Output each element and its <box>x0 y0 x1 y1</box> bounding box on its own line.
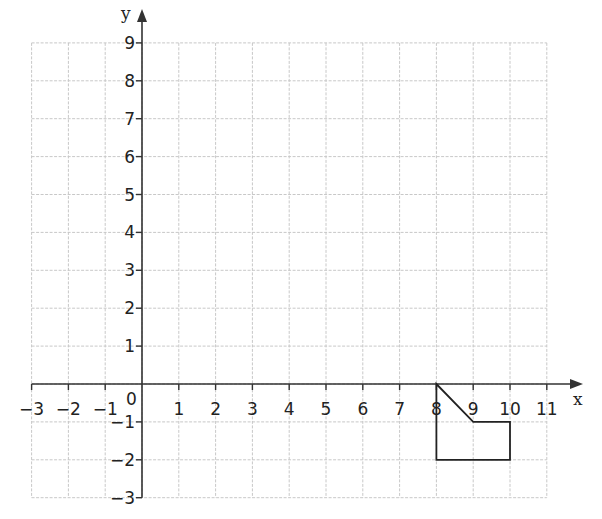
grid-lines <box>32 43 547 498</box>
y-tick-label: 5 <box>124 185 135 205</box>
x-tick-label: 4 <box>284 399 295 419</box>
x-tick-label: 6 <box>357 399 368 419</box>
x-tick-label: 11 <box>536 399 558 419</box>
y-tick-label: 1 <box>124 336 135 356</box>
x-axis-arrow-icon <box>570 379 583 389</box>
y-tick-label: 8 <box>124 71 135 91</box>
x-tick-label: 1 <box>173 399 184 419</box>
x-tick-label: 9 <box>468 399 479 419</box>
y-axis-arrow-icon <box>137 9 147 22</box>
y-tick-label: −2 <box>110 450 135 470</box>
x-tick-label: 10 <box>499 399 521 419</box>
y-tick-label: 2 <box>124 298 135 318</box>
x-tick-label: 3 <box>247 399 258 419</box>
y-tick-label: 7 <box>124 109 135 129</box>
origin-label: 0 <box>126 389 137 409</box>
x-tick-label: −3 <box>19 399 44 419</box>
y-tick-label: 3 <box>124 260 135 280</box>
x-tick-label: −2 <box>56 399 81 419</box>
x-tick-labels: −3−2−11234567891011 <box>19 399 558 419</box>
y-tick-label: −3 <box>110 488 135 508</box>
y-tick-label: 4 <box>124 222 135 242</box>
x-tick-label: 2 <box>210 399 221 419</box>
y-tick-label: 6 <box>124 147 135 167</box>
x-axis-label: x <box>573 389 583 409</box>
y-tick-label: 9 <box>124 33 135 53</box>
coordinate-plane: −3−2−11234567891011 987654321−1−2−3 0 x … <box>0 0 602 519</box>
y-axis-label: y <box>120 3 131 23</box>
y-tick-label: −1 <box>110 412 135 432</box>
x-tick-label: 7 <box>394 399 405 419</box>
x-tick-label: 5 <box>321 399 332 419</box>
